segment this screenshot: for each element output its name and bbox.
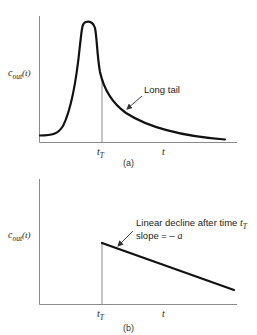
panel-b: cout(t) tT t Linear decline after time t… — [8, 179, 248, 333]
panel-a-y-label: cout(t) — [8, 67, 31, 81]
panel-b-annotation-line1: Linear decline after time tT — [136, 217, 248, 231]
panel-b-x-label: t — [162, 308, 165, 319]
panel-a-x-label: t — [162, 146, 165, 157]
figure-canvas: cout(t) tT t Long tail (a) cout(t) tT t … — [0, 0, 257, 335]
panel-b-annotation-arrow — [118, 231, 133, 246]
panel-b-linear-decline-line — [102, 243, 234, 290]
panel-a: cout(t) tT t Long tail (a) — [8, 16, 237, 168]
panel-a-long-tail-arrow — [127, 96, 142, 109]
panel-b-tT-tick-label: tT — [97, 308, 105, 322]
panel-a-long-tail-annotation: Long tail — [144, 84, 180, 95]
panel-a-output-curve — [40, 22, 225, 140]
panel-b-caption: (b) — [123, 323, 134, 333]
panel-a-caption: (a) — [123, 158, 134, 168]
panel-a-tT-tick-label: tT — [97, 146, 105, 160]
panel-b-y-label: cout(t) — [8, 229, 31, 243]
panel-b-annotation-line2: slope = – a — [136, 230, 182, 241]
